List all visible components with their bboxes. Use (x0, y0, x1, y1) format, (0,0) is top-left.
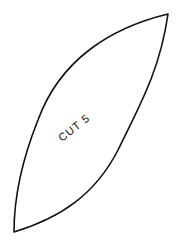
leaf-shape-outline (14, 14, 168, 232)
pattern-piece-diagram: CUT 5 (0, 0, 177, 241)
